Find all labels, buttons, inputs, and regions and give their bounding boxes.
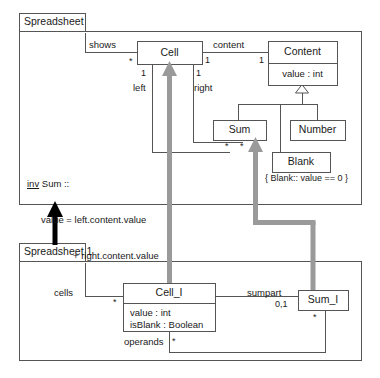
assoc-label-sumpart: sumpart [247,288,281,298]
assoc-label-operands: operands [124,337,164,347]
invariant-line-2: + right.content.value [27,250,159,262]
class-attribute-cell-i-isblank: isBlank : Boolean [130,320,203,330]
class-attribute-cell-i-value: value : int [130,308,171,318]
invariant-keyword: inv [27,178,39,189]
multiplicity-sum-left: * [225,142,229,151]
multiplicity-sumpart: 0,1 [275,300,288,309]
class-name-cell-i: Cell_I [123,287,215,298]
multiplicity-left: 1 [141,69,146,78]
class-name-cell: Cell [137,47,202,58]
invariant-header: inv Sum :: [27,178,159,190]
constraint-blank: { Blank:: value == 0 } [265,174,348,183]
multiplicity-content: 1 [259,56,264,65]
class-name-blank: Blank [272,156,330,167]
assoc-label-left: left [133,83,146,93]
class-name-content: Content [268,46,337,57]
class-name-sum: Sum [213,124,266,135]
multiplicity-right: 1 [196,69,201,78]
class-name-sum-i: Sum_I [298,294,348,305]
package-name-spreadsheet: Spreadsheet [24,16,84,27]
multiplicity-cell-content: 1 [205,56,210,65]
multiplicity-cells: * [113,298,117,307]
assoc-label-shows: shows [89,40,116,50]
invariant-block: inv Sum :: value = left.content.value + … [27,154,159,286]
multiplicity-sum-i: * [313,313,317,322]
multiplicity-sum-right: * [240,142,244,151]
assoc-label-cells: cells [54,288,73,298]
invariant-head-text: Sum :: [39,178,69,189]
class-attribute-content-value: value : int [268,69,337,79]
multiplicity-operands: * [172,337,176,346]
assoc-label-right: right [194,83,212,93]
assoc-label-content: content [213,40,244,50]
class-name-number: Number [290,124,345,135]
uml-diagram-canvas: Spreadsheet Spreadsheet 1 Cell Content v… [0,0,380,378]
multiplicity-shows-cell: * [129,57,133,66]
invariant-line-1: value = left.content.value [27,214,159,226]
